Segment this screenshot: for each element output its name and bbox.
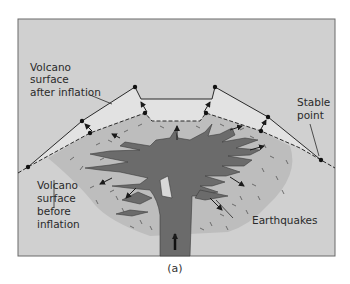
label-earthquakes: Earthquakes [252, 214, 318, 226]
stable-point-marker [319, 158, 323, 162]
survey-point [143, 111, 147, 115]
survey-point [80, 119, 84, 123]
survey-point [88, 131, 92, 135]
survey-point [133, 85, 137, 89]
volcano-inflation-diagram: Volcano surface after inflation Volcano … [0, 0, 350, 284]
survey-point [204, 111, 208, 115]
survey-point [26, 165, 30, 169]
figure-caption: (a) [167, 262, 182, 275]
survey-point [266, 115, 270, 119]
survey-point [213, 85, 217, 89]
survey-point [259, 129, 263, 133]
